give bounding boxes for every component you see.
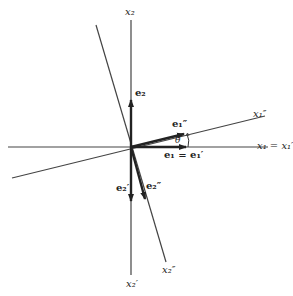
x2-double-prime-axis-label: x₂″ [162,265,175,275]
x1-double-prime-axis-label: x₁″ [253,109,266,119]
e2-double-prime-label: e₂″ [146,181,161,191]
rotation-diagram: x₂ e₂ e₁″ θ e₁ = e₁′ x₁″ x₁ = x₁′ e₂′ e₂… [0,0,293,296]
theta-label: θ [175,136,180,145]
e2-double-prime-vector [131,147,145,199]
e1-double-prime-label: e₁″ [172,119,187,129]
e1-equals-e1-prime-label: e₁ = e₁′ [164,150,203,160]
x2-prime-axis-label: x₂′ [126,279,138,289]
x1-equals-x1-prime-axis-label: x₁ = x₁′ [257,141,293,151]
x2-axis-label: x₂ [125,7,135,17]
e2-label: e₂ [135,88,146,98]
diagram-canvas [0,0,293,296]
e2-prime-label: e₂′ [116,183,129,193]
